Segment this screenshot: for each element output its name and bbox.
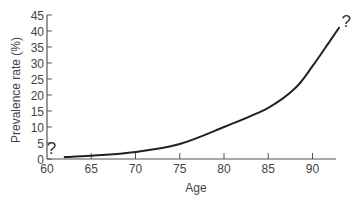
y-tick-label: 35 <box>31 41 45 55</box>
y-axis-title: Prevalence rate (%) <box>9 37 23 143</box>
y-tick-label: 10 <box>31 121 45 135</box>
x-tick-label: 60 <box>40 162 54 176</box>
y-tick-label: 40 <box>31 25 45 39</box>
prevalence-chart: 05101520253035404560657075808590 AgePrev… <box>0 0 358 200</box>
y-tick-label: 30 <box>31 57 45 71</box>
y-tick-label: 25 <box>31 73 45 87</box>
x-axis-title: Age <box>185 181 207 195</box>
y-tick-label: 15 <box>31 105 45 119</box>
x-tick-label: 75 <box>173 162 187 176</box>
prevalence-curve <box>65 28 339 157</box>
y-tick-label: 20 <box>31 89 45 103</box>
question-mark-end: ? <box>341 12 350 31</box>
x-tick-label: 85 <box>262 162 276 176</box>
x-tick-label: 65 <box>85 162 99 176</box>
x-tick-label: 90 <box>306 162 320 176</box>
series-layer <box>65 28 339 157</box>
y-tick-label: 5 <box>37 137 44 151</box>
y-tick-label: 45 <box>31 9 45 23</box>
x-tick-label: 70 <box>129 162 143 176</box>
x-tick-label: 80 <box>217 162 231 176</box>
question-mark-start: ? <box>47 139 56 158</box>
